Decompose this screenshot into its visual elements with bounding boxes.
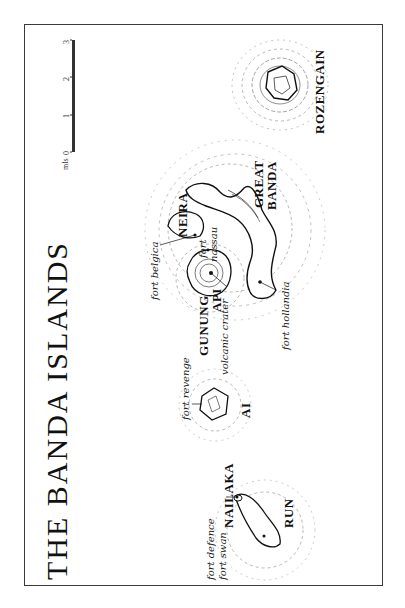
label-fort-swan: fort swan (218, 532, 228, 580)
label-fort-defence: fort defence (206, 518, 216, 580)
label-fort-revenge: fort revenge (181, 357, 191, 420)
label-neira: NEIRA (176, 193, 189, 237)
scale-tick-1: 1 (63, 114, 71, 118)
label-run: RUN (282, 498, 295, 528)
map-title: THE BANDA ISLANDS (42, 241, 72, 580)
central-islands (145, 140, 325, 320)
label-fort-hollandia: fort hollandia (281, 281, 291, 350)
label-fort-nassau-1: fort (198, 239, 208, 258)
label-fort-belgica: fort belgica (150, 242, 160, 300)
label-nailaka: NAILAKA (222, 463, 235, 528)
scale-bar (70, 40, 75, 152)
label-volcanic-crater: volcanic crater (220, 299, 230, 375)
label-great-banda-2: BANDA (265, 161, 278, 210)
label-ai: AI (239, 403, 252, 418)
label-rozengain: ROZENGAIN (313, 49, 326, 134)
scale-tick-2: 2 (63, 77, 71, 81)
scale-tick-3: 3 (63, 40, 71, 44)
scale-tick-0: 0 (63, 151, 71, 155)
label-fort-nassau-2: nassau (209, 227, 219, 262)
scale-unit-label: mls (62, 158, 70, 170)
